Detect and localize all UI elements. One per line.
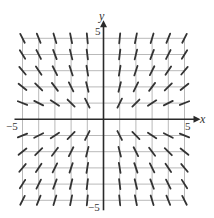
slope-segment — [87, 179, 88, 189]
slope-segment — [87, 50, 88, 60]
y-axis-label: y — [98, 9, 105, 23]
slope-segment — [135, 179, 137, 189]
slope-segment — [86, 163, 88, 173]
x-min-tick-label: −5 — [6, 120, 18, 132]
slope-segment — [86, 147, 88, 157]
slope-segment — [119, 33, 120, 43]
slope-segment — [119, 163, 121, 173]
slope-segment — [87, 33, 88, 43]
slope-segment — [86, 66, 88, 76]
slope-segment — [135, 50, 137, 60]
slope-segment — [119, 66, 121, 76]
slope-segment — [70, 195, 72, 205]
slope-segment — [70, 179, 72, 189]
x-max-tick-label: 5 — [185, 120, 191, 132]
slope-field-diagram: x y −5 5 5 −5 — [0, 0, 214, 218]
slope-segment — [119, 195, 120, 205]
slope-segment — [119, 179, 120, 189]
slope-segment — [118, 82, 120, 92]
slope-segment — [70, 33, 72, 43]
slope-segment — [135, 33, 137, 43]
slope-segment — [119, 50, 120, 60]
x-axis-label: x — [199, 112, 206, 126]
slope-segment — [70, 50, 72, 60]
y-min-tick-label: −5 — [88, 201, 100, 213]
y-max-tick-label: 5 — [95, 25, 101, 37]
slope-segment — [118, 147, 120, 157]
slope-segment — [86, 82, 88, 92]
slope-segment — [135, 195, 137, 205]
